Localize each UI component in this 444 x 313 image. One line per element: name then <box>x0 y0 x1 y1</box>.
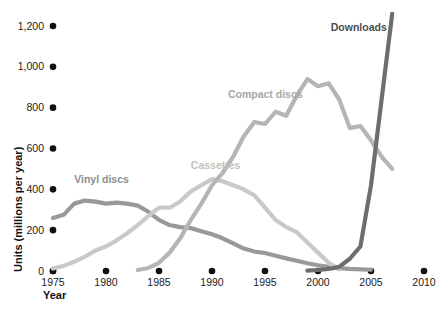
y-tick-dot <box>50 64 57 71</box>
y-tick-dot <box>50 145 57 152</box>
series-label-cassettes: Cassettes <box>191 159 241 171</box>
x-tick-dot <box>209 268 216 275</box>
y-tick-label: 1,200 <box>18 20 44 32</box>
x-axis-ticks: 19751980198519901995200020052010 <box>41 268 436 288</box>
series-lines <box>53 14 392 271</box>
y-tick-dot <box>50 23 57 30</box>
x-tick-label: 1985 <box>147 276 171 288</box>
y-tick-label: 0 <box>38 265 44 277</box>
line-chart: 02004006008001,0001,200 1975198019851990… <box>0 0 444 313</box>
x-tick-dot <box>262 268 269 275</box>
x-tick-dot <box>103 268 110 275</box>
x-tick-label: 2005 <box>359 276 383 288</box>
series-label-compact-discs: Compact discs <box>228 88 303 100</box>
chart-container: 02004006008001,0001,200 1975198019851990… <box>0 0 444 313</box>
y-tick-label: 600 <box>26 142 44 154</box>
y-tick-dot <box>50 104 57 111</box>
x-tick-label: 1975 <box>41 276 65 288</box>
x-tick-dot <box>421 268 428 275</box>
y-tick-dot <box>50 227 57 234</box>
series-line-compact-discs <box>138 79 392 270</box>
y-tick-label: 1,000 <box>18 60 44 72</box>
x-axis-title: Year <box>43 289 67 301</box>
x-tick-dot <box>156 268 163 275</box>
x-tick-label: 1990 <box>200 276 224 288</box>
series-line-downloads <box>307 14 392 271</box>
y-axis-title: Units (millions per year) <box>12 146 24 272</box>
series-label-vinyl-discs: Vinyl discs <box>74 173 129 185</box>
y-tick-label: 800 <box>26 101 44 113</box>
x-tick-label: 1995 <box>253 276 277 288</box>
series-label-downloads: Downloads <box>331 21 387 33</box>
y-tick-label: 400 <box>26 183 44 195</box>
y-tick-label: 200 <box>26 224 44 236</box>
x-tick-label: 1980 <box>94 276 118 288</box>
x-tick-label: 2010 <box>412 276 436 288</box>
series-line-cassettes <box>53 179 339 269</box>
x-tick-label: 2000 <box>306 276 330 288</box>
y-tick-dot <box>50 186 57 193</box>
